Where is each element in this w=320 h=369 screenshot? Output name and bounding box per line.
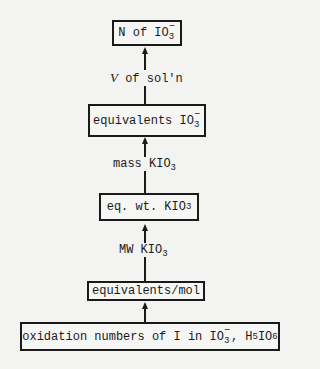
node-normality-iodate: N of IO−3 [112, 20, 182, 46]
arrowhead-icon [142, 47, 148, 54]
node-label: eq. wt. KIO [107, 200, 186, 214]
superscript: − [194, 109, 200, 120]
edge-label-molecular-weight: MW KIO3 [118, 243, 169, 257]
node-label: N of IO [118, 26, 168, 40]
edge-line [144, 307, 146, 322]
superscript: − [224, 325, 230, 336]
superscript: − [169, 21, 175, 32]
node-label: oxidation numbers of I in IO [22, 330, 224, 344]
arrowhead-icon [142, 224, 148, 231]
subscript: 3 [224, 336, 229, 346]
node-equivalent-weight: eq. wt. KIO3 [99, 193, 199, 221]
subscript: 3 [194, 120, 199, 130]
node-label: equivalents/mol [92, 284, 200, 298]
node-equivalents-iodate: equivalents IO−3 [88, 104, 206, 137]
node-label: equivalents IO [93, 114, 194, 128]
node-equivalents-per-mol: equivalents/mol [87, 281, 205, 301]
edge-label-volume: V of sol'n [109, 70, 184, 86]
edge-label-mass: mass KIO3 [112, 157, 177, 171]
arrowhead-icon [142, 302, 148, 309]
node-oxidation-numbers: oxidation numbers of I in IO−3, H5IO6 [20, 322, 280, 351]
subscript: 3 [169, 32, 174, 42]
arrowhead-icon [142, 137, 148, 144]
